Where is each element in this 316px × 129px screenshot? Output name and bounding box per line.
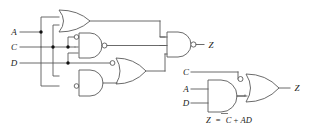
junction-dot-c2	[66, 45, 69, 48]
gate-nand-output	[160, 32, 204, 57]
input-label-a-left: A	[10, 27, 17, 37]
junction-dot-d	[66, 61, 69, 64]
input-label-d-left: D	[10, 58, 18, 68]
gate-nand-middle	[74, 33, 165, 58]
equation-equals: =	[216, 115, 221, 125]
gate-or-bottom	[110, 54, 165, 84]
output-label-z-right: Z	[294, 83, 300, 93]
equation-term-cbar: C	[226, 115, 232, 125]
gate-and-right	[208, 80, 247, 112]
input-wires-right	[191, 72, 238, 103]
equation-lhs-z: Z	[206, 115, 211, 125]
input-label-a-right: A	[182, 84, 189, 94]
input-bubble-or-bottom	[110, 61, 115, 66]
output-bubble-nand-output	[191, 42, 196, 47]
input-label-c-right: C	[183, 67, 190, 77]
junction-dot-a	[39, 30, 42, 33]
output-bubble-nand-middle	[102, 43, 107, 48]
junction-dot-c1	[51, 45, 54, 48]
equation-plus: +	[234, 115, 239, 125]
distribution-wires-left	[41, 17, 110, 86]
equation-lhs: Z = C + AD	[206, 115, 253, 125]
output-label-z-left: Z	[208, 40, 214, 50]
input-label-d-right: D	[182, 98, 190, 108]
input-label-c-left: C	[11, 42, 18, 52]
boolean-equation: Z = C + AD	[206, 114, 253, 126]
gate-and-bottom	[74, 70, 117, 96]
input-bubble-nand-middle	[74, 35, 79, 40]
gate-or-top	[59, 10, 165, 37]
input-bubble-and-bottom	[74, 84, 79, 89]
right-circuit: C A D Z	[182, 67, 301, 112]
gate-or-right	[238, 74, 290, 102]
circuit-diagram-figure: A C D	[0, 0, 316, 129]
equation-term-ad: AD	[240, 115, 253, 125]
input-bubble-or-right	[238, 77, 243, 82]
